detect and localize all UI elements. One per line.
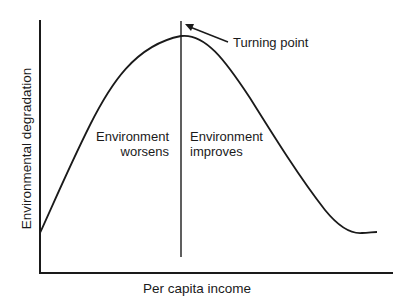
left-region-label-line2: worsens (121, 144, 169, 159)
right-region-label-line1: Environment (190, 129, 263, 144)
y-axis-label: Environmental degradation (19, 61, 34, 236)
x-axis-label: Per capita income (143, 281, 251, 296)
turning-point-arrow (190, 27, 228, 42)
left-region-label-line1: Environment (96, 129, 169, 144)
turning-point-label: Turning point (233, 35, 308, 50)
right-region-label-line2: improves (190, 144, 243, 159)
